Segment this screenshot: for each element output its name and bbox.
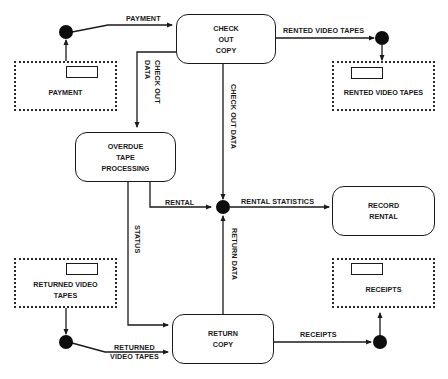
flow-label-rental-statistics: RENTAL STATISTICS [241,198,314,205]
flow-label-payment: PAYMENT [126,15,161,22]
process-label: RETURN COPY [208,328,238,350]
store-returned-video-tapes: RETURNED VIDEO TAPES [14,258,117,308]
store-payment: PAYMENT [14,61,117,111]
flow-label-rental: RENTAL [165,199,194,206]
flow-label-check-out-data-left: CHECK OUT DATA [142,60,162,104]
junction-rental [216,200,230,214]
process-overdue-tape-processing: OVERDUE TAPE PROCESSING [75,132,176,182]
junction-returned-tapes [59,335,73,349]
process-label: RECORD RENTAL [368,200,399,222]
flow-label-returned-video-tapes: RETURNED VIDEO TAPES [110,343,159,361]
store-label: RETURNED VIDEO TAPES [16,279,115,301]
flow-label-check-out-data: CHECK OUT DATA [230,84,237,149]
store-label: RECEIPTS [334,284,433,295]
store-label: RENTED VIDEO TAPES [334,87,433,98]
flow-label-rented-video-tapes: RENTED VIDEO TAPES [283,27,364,34]
store-record-icon [66,263,98,275]
store-record-icon [351,263,383,275]
store-rented-video-tapes: RENTED VIDEO TAPES [332,61,435,111]
flow-label-receipts: RECEIPTS [300,331,337,338]
process-label: OVERDUE TAPE PROCESSING [102,141,150,174]
junction-payment [59,25,73,39]
flow-label-status: STATUS [134,225,141,253]
store-record-icon [66,66,98,78]
data-flow-diagram: CHECK OUT COPY OVERDUE TAPE PROCESSING R… [0,0,448,379]
store-record-icon [351,67,383,79]
process-record-rental: RECORD RENTAL [332,186,435,236]
process-check-out-copy: CHECK OUT COPY [176,14,276,64]
junction-receipts [373,335,387,349]
store-receipts: RECEIPTS [332,258,435,308]
process-return-copy: RETURN COPY [172,314,274,364]
process-label: CHECK OUT COPY [213,23,239,56]
junction-rented-tapes [375,31,389,45]
store-label: PAYMENT [16,87,115,98]
flow-label-return-data: RETURN DATA [231,228,238,280]
